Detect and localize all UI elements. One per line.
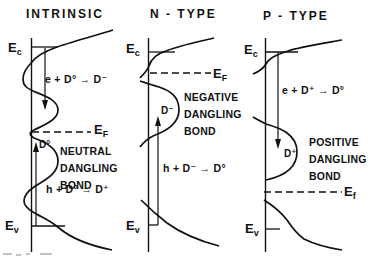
ec-label-intrinsic: Ec bbox=[8, 40, 22, 57]
ec-sub: c bbox=[17, 47, 22, 57]
desc-line-1: POSITIVE bbox=[309, 134, 367, 151]
panel-title-intrinsic: INTRINSIC bbox=[26, 7, 104, 21]
ef-label-ntype: EF bbox=[213, 66, 227, 83]
ef-label-intrinsic: EF bbox=[94, 122, 108, 139]
ev-base: E bbox=[5, 218, 14, 233]
reaction-electron-ptype: e + D⁺ → D° bbox=[282, 84, 344, 96]
reaction-electron-intrinsic: e + D° → D⁻ bbox=[45, 73, 107, 85]
ev-sub: v bbox=[14, 225, 19, 235]
ec-base: E bbox=[126, 41, 135, 56]
ef-sub: F bbox=[103, 129, 109, 139]
arrowhead-down-ptype bbox=[275, 139, 281, 149]
defect-label-ntype: D⁻ bbox=[161, 105, 174, 116]
ec-label-ntype: Ec bbox=[126, 41, 140, 58]
desc-line-1: NEUTRAL bbox=[60, 143, 118, 160]
ef-base: E bbox=[213, 66, 222, 81]
ef-base: E bbox=[94, 122, 103, 137]
desc-line-3: BOND bbox=[309, 168, 367, 185]
ev-base: E bbox=[245, 221, 254, 236]
ev-base: E bbox=[126, 218, 135, 233]
valence-tail-curve-ntype bbox=[141, 200, 219, 246]
conduction-tail-curve-ntype bbox=[140, 38, 214, 78]
desc-line-2: DANGLING bbox=[184, 106, 242, 123]
positive-dangling-bond-label: POSITIVE DANGLING BOND bbox=[309, 134, 367, 185]
energy-band-diagram-figure: INTRINSIC Ec Ev EF e + D° → D⁻ D° NEUTRA… bbox=[0, 0, 381, 260]
ec-sub: c bbox=[253, 49, 258, 59]
ec-label-ptype: Ec bbox=[244, 42, 258, 59]
reaction-hole-intrinsic: h + D° → D⁺ bbox=[46, 183, 109, 195]
defect-label-ptype: D⁺ bbox=[284, 148, 297, 159]
ec-sub: c bbox=[135, 48, 140, 58]
ec-base: E bbox=[244, 42, 253, 57]
panel-title-ptype: P - TYPE bbox=[263, 9, 329, 23]
valence-tail-curve-ptype bbox=[264, 200, 342, 250]
ef-sub: F bbox=[222, 73, 228, 83]
arrowhead-up-ntype bbox=[155, 116, 161, 126]
defect-label-intrinsic: D° bbox=[39, 139, 50, 150]
ec-base: E bbox=[8, 40, 17, 55]
ev-sub: v bbox=[135, 225, 140, 235]
ef-label-ptype: Ef bbox=[344, 184, 356, 201]
ev-label-ntype: Ev bbox=[126, 218, 140, 235]
desc-line-1: NEGATIVE bbox=[184, 89, 242, 106]
ef-sub: f bbox=[353, 191, 356, 201]
panel-title-ntype: N - TYPE bbox=[150, 7, 217, 21]
ev-sub: v bbox=[254, 228, 259, 238]
ev-label-ptype: Ev bbox=[245, 221, 259, 238]
ef-base: E bbox=[344, 184, 353, 199]
reaction-hole-ntype: h + D⁻ → D° bbox=[163, 162, 226, 174]
arrowhead-down-intrinsic bbox=[42, 100, 48, 110]
conduction-tail-curve-ptype bbox=[253, 40, 342, 74]
ev-label-intrinsic: Ev bbox=[5, 218, 19, 235]
desc-line-2: DANGLING bbox=[60, 160, 118, 177]
desc-line-3: BOND bbox=[184, 123, 242, 140]
negative-dangling-bond-label: NEGATIVE DANGLING BOND bbox=[184, 89, 242, 140]
desc-line-2: DANGLING bbox=[309, 151, 367, 168]
